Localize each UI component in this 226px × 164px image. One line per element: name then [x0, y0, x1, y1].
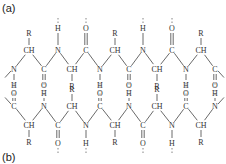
top-atom-n: N [55, 46, 61, 55]
bottom-sub-o: O [97, 89, 103, 98]
top-sub-o: O [169, 24, 175, 33]
bottom-sub-r: R [26, 138, 32, 147]
top-atom-ch: CH [23, 46, 34, 55]
bottom-sub-r: R [112, 138, 118, 147]
top-atom-ch: CH [195, 46, 206, 55]
bottom-atom-n: N [126, 102, 132, 111]
bottom-atom-c: C [11, 102, 16, 111]
top-atom-c: C [169, 46, 174, 55]
top-sub-r: R [112, 29, 118, 38]
panel-label-a: (a) [2, 2, 15, 14]
bottom-sub-o: O [140, 139, 146, 148]
bottom-atom-c: C [97, 102, 102, 111]
top-atom-ch: CH [151, 65, 162, 74]
bottom-sub-r: R [154, 85, 160, 94]
top-atom-n: N [140, 46, 146, 55]
bottom-atom-ch: CH [66, 102, 77, 111]
bottom-sub-o: O [183, 89, 189, 98]
top-sub-o: O [83, 24, 89, 33]
top-atom-n: N [97, 65, 103, 74]
bottom-sub-h: H [212, 89, 218, 98]
bottom-sub-h: H [41, 89, 47, 98]
bottom-sub-r: R [69, 85, 75, 94]
bottom-sub-h: H [83, 139, 89, 148]
top-atom-n: N [11, 65, 17, 74]
bottom-atom-n: N [212, 102, 218, 111]
bottom-sub-o: O [11, 89, 17, 98]
top-atom-c: C [41, 65, 46, 74]
bottom-atom-ch: CH [109, 121, 120, 130]
top-atom-ch: CH [109, 46, 120, 55]
top-sub-h: H [55, 24, 61, 33]
top-sub-r: R [26, 29, 32, 38]
top-atom-c: C [212, 65, 217, 74]
bottom-atom-c: C [140, 121, 145, 130]
bottom-sub-o: O [55, 139, 61, 148]
panel-label-b: (b) [2, 151, 15, 163]
top-atom-ch: CH [66, 65, 77, 74]
bottom-sub-h: H [169, 139, 175, 148]
top-atom-n: N [183, 65, 189, 74]
bottom-atom-ch: CH [151, 102, 162, 111]
top-sub-h: H [140, 24, 146, 33]
top-atom-c: C [83, 46, 88, 55]
bottom-atom-n: N [169, 121, 175, 130]
bottom-sub-r: R [198, 138, 204, 147]
bottom-atom-c: C [55, 121, 60, 130]
bottom-atom-ch: CH [195, 121, 206, 130]
top-sub-r: R [198, 29, 204, 38]
bottom-sub-h: H [126, 89, 132, 98]
bottom-atom-n: N [83, 121, 89, 130]
bottom-atom-ch: CH [23, 121, 34, 130]
top-atom-c: C [126, 65, 131, 74]
bottom-atom-n: N [41, 102, 47, 111]
bottom-atom-c: C [183, 102, 188, 111]
beta-sheet-diagram: NCHCNCHCNCHCNCHCNCHCHROHROHROHROHROCCHNC… [0, 0, 226, 164]
